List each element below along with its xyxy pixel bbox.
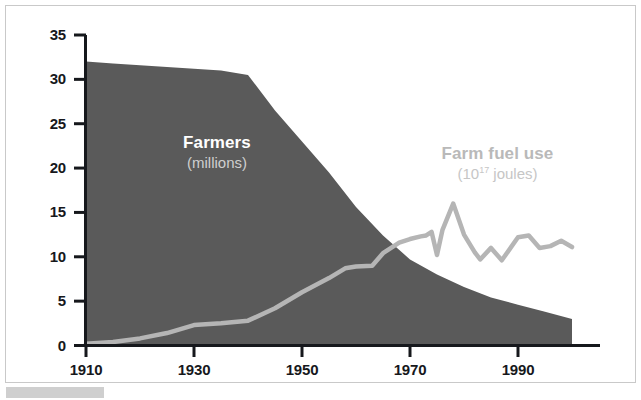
x-axis-tick-label: 1990 [488, 361, 548, 378]
x-axis-tick-label: 1930 [164, 361, 224, 378]
y-axis-tick-label: 25 [32, 115, 66, 132]
footer-accent-bar [6, 387, 104, 398]
series-farmers-area [86, 62, 572, 346]
x-axis-tick-label: 1970 [380, 361, 440, 378]
y-axis-tick-label: 10 [32, 248, 66, 265]
chart-plot-area [0, 0, 641, 400]
x-axis-tick-label: 1910 [56, 361, 116, 378]
y-axis-tick-label: 20 [32, 159, 66, 176]
chart-figure: 05101520253035 19101930195019701990 Farm… [0, 0, 641, 400]
y-axis-tick-label: 5 [32, 292, 66, 309]
x-axis-tick-label: 1950 [272, 361, 332, 378]
y-axis-tick-label: 35 [32, 26, 66, 43]
y-axis-tick-label: 0 [32, 337, 66, 354]
y-axis-tick-label: 30 [32, 70, 66, 87]
y-axis-tick-label: 15 [32, 203, 66, 220]
